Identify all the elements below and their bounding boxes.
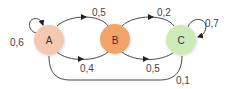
edge-label-a-b: 0,4 — [80, 63, 94, 74]
edge-c-a — [49, 56, 182, 80]
edge-label-c-a: 0,1 — [176, 75, 190, 86]
edge-b-c — [122, 52, 174, 60]
node-a-label: A — [46, 35, 53, 46]
node-b[interactable]: B — [100, 24, 130, 54]
edge-label-a-a: 0,6 — [10, 37, 24, 48]
edge-b-a — [57, 17, 108, 26]
markov-chain-diagram: 0,6 0,5 0,4 0,2 0,5 0,7 0,1 A B C — [0, 0, 232, 89]
edge-label-c-b: 0,2 — [157, 7, 171, 18]
node-b-label: B — [112, 35, 119, 46]
edge-label-c-c: 0,7 — [205, 18, 219, 29]
node-c-label: C — [177, 35, 184, 46]
edge-label-b-c: 0,5 — [146, 63, 160, 74]
node-a[interactable]: A — [34, 25, 64, 55]
edge-a-b — [57, 52, 108, 60]
edge-c-b — [122, 17, 174, 26]
edge-label-b-a: 0,5 — [92, 7, 106, 18]
node-c[interactable]: C — [166, 25, 196, 55]
